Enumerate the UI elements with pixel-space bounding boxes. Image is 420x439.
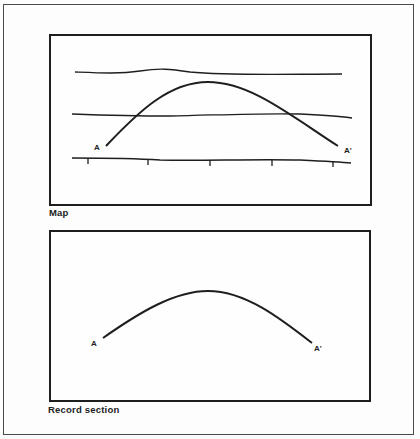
map-line-bottom (72, 158, 351, 163)
map-label-a-prime: A' (344, 146, 352, 155)
map-line-middle (72, 114, 352, 118)
map-line-top (75, 69, 342, 74)
record-label-a-prime: A' (314, 344, 322, 353)
map-label-a: A (94, 143, 100, 152)
diagram-drawing: A A' A A' (0, 0, 420, 439)
record-label-a: A (91, 339, 97, 348)
record-arch-curve (103, 291, 312, 343)
